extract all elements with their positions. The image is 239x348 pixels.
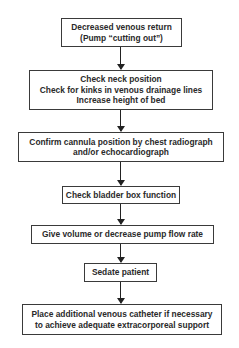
step-text-line: Give volume or decrease pump flow rate (42, 229, 203, 239)
arrow-down-icon (120, 244, 121, 262)
step-give-volume: Give volume or decrease pump flow rate (31, 225, 214, 244)
step-text-line: and/or echocardiograph (73, 147, 169, 157)
step-text-line: Confirm cannula position by chest radiog… (29, 137, 212, 147)
arrow-down-icon (120, 204, 121, 224)
step-text-line: (Pump “cutting out”) (80, 33, 163, 43)
step-text-line: Check for kinks in venous drainage lines (40, 85, 202, 95)
step-text-line: Check bladder box function (66, 190, 176, 200)
step-text-line: Decreased venous return (71, 22, 172, 32)
step-text-line: Place additional venous catheter if nece… (31, 309, 212, 319)
step-place-venous-catheter: Place additional venous catheter if nece… (22, 304, 222, 335)
step-decreased-venous-return: Decreased venous return (Pump “cutting o… (61, 18, 182, 47)
step-text-line: Check neck position (80, 74, 161, 84)
step-check-neck-position: Check neck position Check for kinks in v… (29, 70, 213, 110)
step-confirm-cannula-position: Confirm cannula position by chest radiog… (18, 132, 224, 162)
step-sedate-patient: Sedate patient (84, 263, 157, 282)
arrow-down-icon (120, 110, 121, 131)
step-check-bladder-box: Check bladder box function (62, 186, 180, 204)
step-text-line: to achieve adequate extracorporeal suppo… (35, 320, 209, 330)
arrow-down-icon (120, 282, 121, 303)
step-text-line: Sedate patient (92, 267, 149, 277)
arrow-down-icon (120, 47, 121, 69)
step-text-line: Increase height of bed (77, 95, 166, 105)
arrow-down-icon (120, 162, 121, 185)
